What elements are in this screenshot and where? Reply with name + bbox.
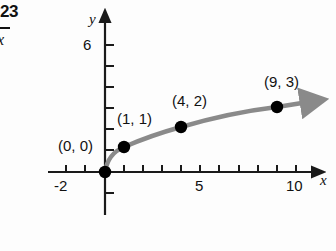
x-axis-label: x bbox=[320, 172, 327, 189]
point-label-1-1: (1, 1) bbox=[117, 110, 152, 127]
x-axis bbox=[48, 165, 312, 172]
data-point-1-1 bbox=[118, 141, 130, 153]
y-axis-label: y bbox=[89, 11, 96, 28]
data-point-9-3 bbox=[271, 101, 283, 113]
point-label-4-2: (4, 2) bbox=[172, 92, 207, 109]
x-tick-label-10: 10 bbox=[286, 177, 303, 194]
y-axis bbox=[105, 22, 114, 215]
graph-plot bbox=[0, 0, 336, 251]
y-tick-label-6: 6 bbox=[83, 36, 91, 53]
point-label-9-3: (9, 3) bbox=[264, 73, 299, 90]
figure-canvas: 23 x bbox=[0, 0, 336, 251]
x-tick-label-minus2: -2 bbox=[54, 177, 67, 194]
point-label-0-0: (0, 0) bbox=[58, 137, 93, 154]
x-tick-label-5: 5 bbox=[195, 177, 203, 194]
data-point-4-2 bbox=[175, 121, 187, 133]
data-point-0-0 bbox=[99, 166, 111, 178]
